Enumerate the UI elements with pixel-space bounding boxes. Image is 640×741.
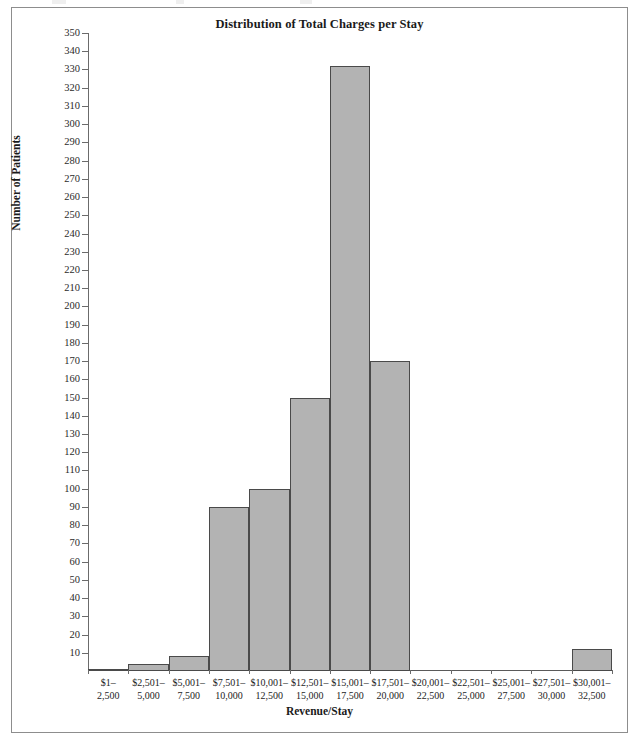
bar	[370, 361, 410, 671]
y-axis-tick	[82, 124, 88, 125]
y-axis-tick-label: 240	[40, 229, 80, 239]
bar	[249, 489, 289, 671]
x-axis-tick	[290, 670, 291, 674]
y-axis-tick	[82, 562, 88, 563]
y-axis-tick-label: 10	[40, 648, 80, 658]
y-axis-tick	[82, 288, 88, 289]
y-axis-tick	[82, 580, 88, 581]
x-axis-tick	[370, 670, 371, 674]
y-axis-tick	[82, 489, 88, 490]
y-axis-tick-label: 270	[40, 174, 80, 184]
y-axis-tick-label: 260	[40, 192, 80, 202]
y-axis-tick	[82, 507, 88, 508]
bar	[290, 398, 330, 671]
y-axis-tick-label: 310	[40, 101, 80, 111]
y-axis-tick-label: 190	[40, 320, 80, 330]
x-axis-tick	[451, 670, 452, 674]
y-axis-tick	[82, 88, 88, 89]
y-axis-tick	[82, 434, 88, 435]
y-axis-tick	[82, 142, 88, 143]
y-axis-tick	[82, 106, 88, 107]
plot-area: 1020304050607080901001101201301401501601…	[88, 33, 612, 671]
y-axis-tick	[82, 179, 88, 180]
y-axis-tick	[82, 33, 88, 34]
bar	[169, 656, 209, 671]
y-axis-tick	[82, 635, 88, 636]
y-axis-tick-label: 230	[40, 247, 80, 257]
y-axis-tick-label: 200	[40, 301, 80, 311]
y-axis-tick-label: 60	[40, 557, 80, 567]
y-axis-tick	[82, 343, 88, 344]
y-axis-tick	[82, 398, 88, 399]
y-axis-tick-label: 100	[40, 484, 80, 494]
y-axis-tick-label: 70	[40, 538, 80, 548]
y-axis-tick-label: 250	[40, 210, 80, 220]
x-axis-category-label: $30,001–32,500	[566, 676, 618, 702]
y-axis-tick-label: 80	[40, 520, 80, 530]
y-axis-tick	[82, 234, 88, 235]
y-axis-tick-label: 280	[40, 156, 80, 166]
scan-artifact-strip	[0, 0, 640, 7]
y-axis-tick-label: 90	[40, 502, 80, 512]
y-axis-tick-label: 20	[40, 630, 80, 640]
y-axis-tick-label: 340	[40, 46, 80, 56]
y-axis-tick	[82, 69, 88, 70]
x-axis-tick	[531, 670, 532, 674]
x-axis-tick	[169, 670, 170, 674]
y-axis-tick-label: 40	[40, 593, 80, 603]
y-axis-title: Number of Patients	[10, 103, 22, 263]
y-axis-tick	[82, 252, 88, 253]
x-axis-tick	[612, 670, 613, 674]
x-axis-title: Revenue/Stay	[12, 705, 627, 717]
y-axis-tick-label: 330	[40, 64, 80, 74]
y-axis-line	[88, 33, 89, 671]
x-axis-tick	[88, 670, 89, 674]
y-axis-tick-label: 120	[40, 447, 80, 457]
y-axis-tick-label: 220	[40, 265, 80, 275]
y-axis-tick-label: 320	[40, 83, 80, 93]
y-axis-tick-label: 180	[40, 338, 80, 348]
x-axis-tick	[491, 670, 492, 674]
bar	[128, 664, 168, 671]
y-axis-tick-label: 150	[40, 393, 80, 403]
x-axis-category-labels: $1–2,500$2,501–5,000$5,001–7,500$7,501–1…	[88, 676, 612, 708]
y-axis-tick	[82, 51, 88, 52]
bar	[209, 507, 249, 671]
y-axis-tick	[82, 161, 88, 162]
y-axis-tick-label: 140	[40, 411, 80, 421]
y-axis-tick	[82, 598, 88, 599]
y-axis-tick	[82, 525, 88, 526]
y-axis-tick-label: 130	[40, 429, 80, 439]
y-axis-tick-label: 350	[40, 28, 80, 38]
y-axis-tick	[82, 197, 88, 198]
y-axis-tick	[82, 653, 88, 654]
y-axis-tick-label: 170	[40, 356, 80, 366]
y-axis-tick	[82, 215, 88, 216]
y-axis-tick-label: 210	[40, 283, 80, 293]
y-axis-tick-labels: 1020304050607080901001101201301401501601…	[36, 33, 80, 671]
y-axis-tick	[82, 543, 88, 544]
y-axis-tick	[82, 616, 88, 617]
y-axis-tick	[82, 452, 88, 453]
y-axis-tick	[82, 325, 88, 326]
bar	[88, 669, 128, 671]
figure-frame: Distribution of Total Charges per Stay N…	[11, 7, 628, 733]
y-axis-tick	[82, 379, 88, 380]
x-axis-tick	[410, 670, 411, 674]
y-axis-tick-label: 50	[40, 575, 80, 585]
y-axis-tick	[82, 416, 88, 417]
x-axis-tick	[128, 670, 129, 674]
bar	[330, 66, 370, 671]
y-axis-tick-label: 290	[40, 137, 80, 147]
x-axis-tick	[572, 670, 573, 674]
x-axis-tick	[209, 670, 210, 674]
chart-title: Distribution of Total Charges per Stay	[12, 17, 627, 32]
y-axis-tick-label: 30	[40, 611, 80, 621]
y-axis-tick-label: 160	[40, 374, 80, 384]
x-axis-tick	[249, 670, 250, 674]
y-axis-tick	[82, 306, 88, 307]
y-axis-tick-label: 110	[40, 465, 80, 475]
y-axis-tick	[82, 470, 88, 471]
bar	[572, 649, 612, 671]
y-axis-tick-label: 300	[40, 119, 80, 129]
